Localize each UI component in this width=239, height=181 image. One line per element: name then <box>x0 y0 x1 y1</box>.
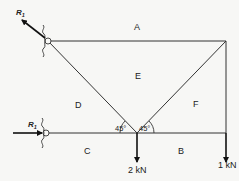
right-angle-label: 45° <box>139 124 150 133</box>
reaction-r2-label: R1 <box>28 120 37 130</box>
truss-diagram: R1 R1 45° 45° 2 kN 1 kN A E D F C B <box>0 0 239 181</box>
top-support-icon <box>43 25 51 57</box>
reaction-r1-label: R1 <box>16 8 25 18</box>
reaction-r1-arrow <box>22 20 45 38</box>
left-diagonal <box>48 41 137 133</box>
bottom-support-icon <box>42 118 49 148</box>
space-label-b: B <box>178 146 184 156</box>
space-label-a: A <box>134 22 140 32</box>
right-load-label: 1 kN <box>218 160 237 170</box>
left-angle-label: 45° <box>115 124 126 133</box>
center-load-label: 2 kN <box>128 165 147 175</box>
space-label-e: E <box>135 71 141 81</box>
space-label-d: D <box>75 100 82 110</box>
space-label-c: C <box>84 146 91 156</box>
space-label-f: F <box>193 99 199 109</box>
truss-svg: R1 R1 45° 45° 2 kN 1 kN A E D F C B <box>0 0 239 181</box>
right-diagonal <box>137 41 226 133</box>
